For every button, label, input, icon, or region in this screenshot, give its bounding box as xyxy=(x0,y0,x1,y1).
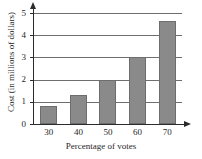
x-tick-label: 50 xyxy=(93,127,123,137)
x-axis-title: Percentage of votes xyxy=(0,141,202,151)
y-axis-title: Cost (in millions of dollars) xyxy=(6,0,16,124)
x-tick-label: 60 xyxy=(123,127,153,137)
x-tick-label: 30 xyxy=(34,127,64,137)
x-tick-labels: 30 40 50 60 70 xyxy=(34,127,182,137)
x-tick-label: 70 xyxy=(152,127,182,137)
bar-chart: 0 1 2 3 4 5 30 40 50 60 70 Percentage of… xyxy=(0,0,202,159)
x-tick-label: 40 xyxy=(64,127,94,137)
